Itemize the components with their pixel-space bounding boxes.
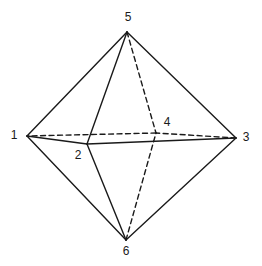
edge-6-2 (87, 144, 126, 240)
edge-5-2 (87, 32, 127, 144)
octahedron-diagram: 123456 (0, 0, 262, 266)
edge-5-4-hidden (127, 32, 156, 133)
vertex-label-5: 5 (125, 10, 132, 24)
edge-3-4-hidden (156, 133, 236, 138)
edges-group (27, 32, 236, 240)
edge-6-4-hidden (126, 133, 156, 240)
vertex-label-6: 6 (123, 244, 130, 258)
vertex-label-1: 1 (11, 128, 18, 142)
edge-5-1 (27, 32, 127, 136)
edge-2-3 (87, 138, 236, 144)
edge-1-2 (27, 136, 87, 144)
edge-6-3 (126, 138, 236, 240)
vertex-label-2: 2 (75, 148, 82, 162)
vertex-label-4: 4 (164, 115, 171, 129)
edge-5-3 (127, 32, 236, 138)
vertex-label-3: 3 (243, 130, 250, 144)
